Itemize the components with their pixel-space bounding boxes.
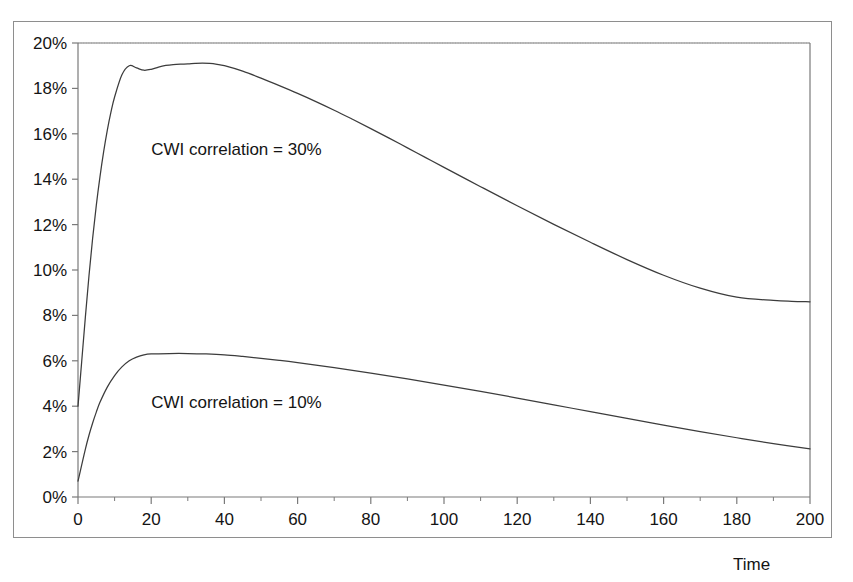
y-axis-tick-label: 20% [33, 35, 67, 52]
x-axis-tick-label: 20 [142, 511, 161, 528]
y-axis-tick-label: 0% [42, 489, 67, 506]
x-axis-tick-label: 60 [288, 511, 307, 528]
chart-figure: 0%2%4%6%8%10%12%14%16%18%20% 02040608010… [0, 0, 853, 582]
x-axis-tick-label: 200 [796, 511, 824, 528]
y-axis-tick-label: 6% [42, 352, 67, 369]
x-axis-title: Time [733, 556, 770, 573]
x-axis-tick-label: 40 [215, 511, 234, 528]
y-axis-tick-label: 16% [33, 125, 67, 142]
y-axis-tick-label: 8% [42, 307, 67, 324]
x-axis-tick-label: 180 [723, 511, 751, 528]
annotation-cwi-correlation-30: CWI correlation = 30% [151, 141, 322, 158]
annotation-cwi-correlation-10: CWI correlation = 10% [151, 394, 322, 411]
x-axis-tick-label: 160 [649, 511, 677, 528]
x-axis-tick-label: 140 [576, 511, 604, 528]
chart-outer-border [13, 21, 832, 538]
y-axis-tick-label: 12% [33, 216, 67, 233]
x-axis-tick-label: 120 [503, 511, 531, 528]
x-axis-tick-label: 80 [361, 511, 380, 528]
y-axis-tick-label: 10% [33, 262, 67, 279]
y-axis-tick-label: 18% [33, 80, 67, 97]
y-axis-tick-label: 14% [33, 171, 67, 188]
y-axis-tick-label: 4% [42, 398, 67, 415]
x-axis-tick-label: 100 [430, 511, 458, 528]
x-axis-tick-label: 0 [73, 511, 82, 528]
y-axis-tick-label: 2% [42, 443, 67, 460]
